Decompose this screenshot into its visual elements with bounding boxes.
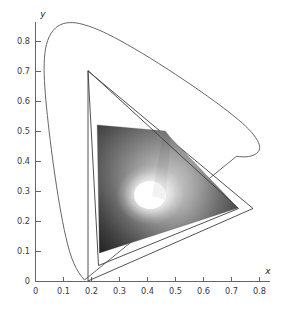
y-tick-label: 0.1: [17, 246, 30, 256]
chart-canvas: 0 0.1 0.2 0.3 0.4 0.5 0.6 0.7 0.8 0 0.1 …: [0, 0, 286, 314]
y-tick-label: 0.5: [17, 126, 30, 136]
x-tick-label: 0.8: [253, 286, 266, 296]
x-tick-labels: 0 0.1 0.2 0.3 0.4 0.5 0.6 0.7 0.8: [33, 286, 266, 296]
y-tick-label: 0.2: [17, 216, 30, 226]
x-tick-label: 0.4: [141, 286, 154, 296]
x-tick-label: 0.5: [169, 286, 182, 296]
y-tick-label: 0.4: [17, 156, 30, 166]
y-axis-title: y: [39, 9, 46, 19]
x-tick-label: 0.6: [197, 286, 210, 296]
x-tick-label: 0: [33, 286, 38, 296]
y-tick-marks: [36, 42, 41, 282]
y-tick-label: 0.8: [17, 36, 30, 46]
x-tick-marks: [36, 277, 260, 282]
y-tick-label: 0: [25, 276, 30, 286]
y-tick-label: 0.3: [17, 186, 30, 196]
y-tick-label: 0.6: [17, 96, 30, 106]
x-tick-label: 0.7: [225, 286, 238, 296]
chromaticity-diagram-figure: 0 0.1 0.2 0.3 0.4 0.5 0.6 0.7 0.8 0 0.1 …: [0, 0, 286, 314]
printer-gamut-blob: [90, 118, 250, 263]
y-tick-label: 0.7: [17, 66, 30, 76]
x-tick-label: 0.1: [57, 286, 70, 296]
x-tick-label: 0.2: [85, 286, 98, 296]
y-tick-labels: 0 0.1 0.2 0.3 0.4 0.5 0.6 0.7 0.8: [17, 36, 30, 286]
x-axis-title: x: [264, 266, 271, 276]
x-tick-label: 0.3: [113, 286, 126, 296]
